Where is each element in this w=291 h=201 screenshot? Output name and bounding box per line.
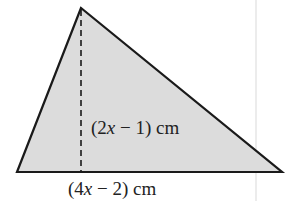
height-label: (2x − 1) cm (91, 117, 179, 139)
triangle-diagram: (2x − 1) cm (4x − 2) cm (0, 0, 291, 201)
triangle (17, 8, 282, 172)
base-label: (4x − 2) cm (68, 178, 156, 200)
